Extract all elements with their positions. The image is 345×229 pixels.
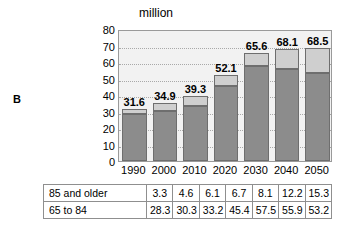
x-tick-label: 2040 <box>271 164 302 177</box>
x-tick-label: 2000 <box>149 164 180 177</box>
bars-layer: 31.634.939.352.165.668.168.5 <box>119 31 331 161</box>
x-tick-label: 2030 <box>240 164 271 177</box>
bar-segment-65-to-84[interactable] <box>214 86 238 161</box>
bar-segment-85-and-older[interactable] <box>153 103 177 111</box>
y-tick-label: 30 <box>103 107 115 119</box>
x-tick-label: 2010 <box>179 164 210 177</box>
y-tick-label: 20 <box>103 123 115 135</box>
y-tick-label: 70 <box>103 41 115 53</box>
table-cell: 33.2 <box>199 202 225 219</box>
data-table: 85 and older3.34.66.16.78.112.215.365 to… <box>43 184 332 219</box>
table-cell: 30.3 <box>173 202 199 219</box>
bar-group[interactable]: 31.6 <box>122 109 146 161</box>
bar-segment-65-to-84[interactable] <box>305 73 329 161</box>
panel-letter: B <box>13 93 21 105</box>
bar-segment-65-to-84[interactable] <box>183 106 207 161</box>
table-row-header: 85 and older <box>44 185 147 202</box>
y-tick-label: 60 <box>103 57 115 69</box>
bar-group[interactable]: 68.1 <box>275 49 299 161</box>
bar-total-label: 68.5 <box>297 35 337 47</box>
bar-segment-85-and-older[interactable] <box>183 96 207 106</box>
y-tick-label: 50 <box>103 74 115 86</box>
axis-unit-label: million <box>139 6 173 20</box>
y-tick-label: 10 <box>103 140 115 152</box>
table-cell: 55.9 <box>279 202 305 219</box>
x-axis: 1990200020102020203020402050 <box>118 164 332 178</box>
bar-segment-85-and-older[interactable] <box>214 75 238 86</box>
plot-area: 31.634.939.352.165.668.168.5 <box>118 30 332 162</box>
bar-segment-85-and-older[interactable] <box>244 53 268 66</box>
bar-segment-85-and-older[interactable] <box>122 109 146 114</box>
bar-segment-65-to-84[interactable] <box>275 69 299 161</box>
table-cell: 12.2 <box>279 185 305 202</box>
table-row-header: 65 to 84 <box>44 202 147 219</box>
bar-group[interactable]: 39.3 <box>183 96 207 161</box>
bar-segment-85-and-older[interactable] <box>275 49 299 69</box>
bar-segment-65-to-84[interactable] <box>153 111 177 161</box>
data-table-body: 85 and older3.34.66.16.78.112.215.365 to… <box>44 185 332 219</box>
table-cell: 53.2 <box>305 202 331 219</box>
y-tick-label: 0 <box>109 156 115 168</box>
table-row: 65 to 8428.330.333.245.457.555.953.2 <box>44 202 332 219</box>
x-tick-label: 1990 <box>118 164 149 177</box>
x-tick-label: 2050 <box>301 164 332 177</box>
bar-group[interactable]: 65.6 <box>244 53 268 161</box>
bar-total-label: 52.1 <box>206 62 246 74</box>
table-cell: 4.6 <box>173 185 199 202</box>
bar-total-label: 39.3 <box>175 83 215 95</box>
bar-segment-65-to-84[interactable] <box>122 114 146 161</box>
bar-group[interactable]: 68.5 <box>305 48 329 161</box>
table-cell: 57.5 <box>252 202 278 219</box>
y-axis: 80706050403020100 <box>99 24 115 168</box>
y-tick-label: 80 <box>103 24 115 36</box>
table-cell: 45.4 <box>226 202 252 219</box>
table-cell: 6.7 <box>226 185 252 202</box>
bar-group[interactable]: 52.1 <box>214 75 238 161</box>
bar-group[interactable]: 34.9 <box>153 103 177 161</box>
table-cell: 3.3 <box>147 185 173 202</box>
bar-segment-65-to-84[interactable] <box>244 66 268 161</box>
table-cell: 28.3 <box>147 202 173 219</box>
table-row: 85 and older3.34.66.16.78.112.215.3 <box>44 185 332 202</box>
table-cell: 8.1 <box>252 185 278 202</box>
table-cell: 15.3 <box>305 185 331 202</box>
bar-segment-85-and-older[interactable] <box>305 48 329 73</box>
x-tick-label: 2020 <box>210 164 241 177</box>
table-cell: 6.1 <box>199 185 225 202</box>
